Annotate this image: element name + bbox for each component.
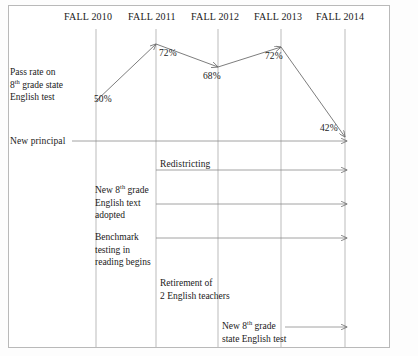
event-benchmark-line2: testing in — [95, 244, 151, 257]
event-state-test-line1-post: grade — [252, 321, 275, 331]
event-retirement-line2: 2 English teachers — [160, 290, 230, 303]
year-label-2011: FALL 2011 — [128, 11, 176, 24]
data-label-2013: 72% — [265, 50, 283, 63]
event-new-text-line1: New 8th grade — [95, 184, 149, 197]
series-axis-label-line2-post: grade state — [20, 80, 63, 90]
event-label-new-principal: New principal — [10, 135, 65, 148]
event-benchmark-line1: Benchmark — [95, 231, 151, 244]
series-axis-label-line3: English test — [10, 91, 63, 104]
series-axis-label-line2: 8th grade state — [10, 79, 63, 92]
series-axis-label: Pass rate on 8th grade state English tes… — [10, 66, 63, 104]
event-state-test-line1-pre: New 8 — [222, 321, 247, 331]
event-label-new-english-text: New 8th grade English text adopted — [95, 184, 149, 222]
year-label-2014: FALL 2014 — [316, 11, 364, 24]
event-new-text-line1-post: grade — [125, 185, 148, 195]
year-label-2010: FALL 2010 — [64, 11, 112, 24]
event-new-text-line2: English text — [95, 197, 149, 210]
event-new-text-line3: adopted — [95, 209, 149, 222]
year-label-2012: FALL 2012 — [191, 11, 239, 24]
data-label-2014: 42% — [320, 122, 338, 135]
timeline-chart-figure: FALL 2010 FALL 2011 FALL 2012 FALL 2013 … — [0, 0, 418, 356]
event-label-benchmark-testing: Benchmark testing in reading begins — [95, 231, 151, 269]
data-label-2012: 68% — [203, 70, 221, 83]
event-label-retirement: Retirement of 2 English teachers — [160, 277, 230, 302]
event-state-test-line2: state English test — [222, 333, 286, 346]
data-label-2011: 72% — [159, 47, 177, 60]
event-retirement-line1: Retirement of — [160, 277, 230, 290]
event-new-text-line1-pre: New 8 — [95, 185, 120, 195]
event-benchmark-line3: reading begins — [95, 256, 151, 269]
event-label-redistricting: Redistricting — [160, 158, 210, 171]
year-label-2013: FALL 2013 — [254, 11, 302, 24]
data-label-2010: 50% — [94, 93, 112, 106]
event-state-test-line1: New 8th grade — [222, 320, 286, 333]
event-label-new-state-test: New 8th grade state English test — [222, 320, 286, 345]
